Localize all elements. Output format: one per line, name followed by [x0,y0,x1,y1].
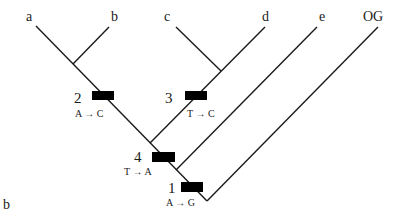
mutation-number-3: 3 [165,90,173,106]
mutation-change-2: A → C [75,108,104,119]
branch-d-clade [150,27,265,143]
mutation-number-2: 2 [74,90,82,106]
mutation-change-4: T → A [124,166,152,177]
mutation-box-1 [181,182,203,192]
mutation-box-2 [92,91,114,100]
taxon-label-e: e [319,9,325,24]
phylogenetic-tree: a b c d e OG 2 A → C 3 T → C 4 T → A 1 A… [0,0,395,218]
branch-og [207,27,378,201]
mutation-box-3 [185,91,207,100]
mutation-number-1: 1 [168,180,176,196]
branch-c [176,27,221,71]
branch-a-to-root [36,26,207,201]
taxon-label-og: OG [363,9,383,24]
taxon-label-a: a [26,9,33,24]
taxon-label-b: b [111,9,118,24]
taxon-label-c: c [164,9,170,24]
branch-b [73,27,109,64]
taxon-label-d: d [262,9,269,24]
panel-label: b [3,197,10,212]
mutation-change-1: A → G [166,197,195,208]
mutation-change-3: T → C [187,108,215,119]
mutation-number-4: 4 [134,149,142,165]
mutation-box-4 [152,152,175,162]
